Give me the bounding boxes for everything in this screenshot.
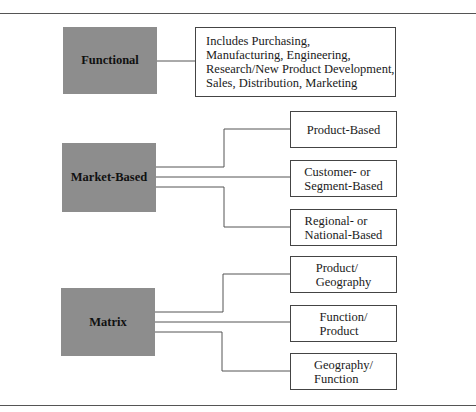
- category-label: Matrix: [89, 315, 126, 330]
- box-label: Regional- or National-Based: [305, 214, 383, 242]
- box-label: Customer- or Segment-Based: [304, 165, 382, 193]
- customer-segment-based-box: Customer- or Segment-Based: [290, 160, 397, 197]
- box-label: Product-Based: [307, 123, 381, 137]
- product-geography-box: Product/ Geography: [290, 256, 397, 293]
- functional-description: Includes Purchasing, Manufacturing, Engi…: [206, 34, 394, 90]
- connector-product-based: [156, 129, 290, 167]
- connector-regional-based: [156, 187, 290, 227]
- category-matrix: Matrix: [61, 288, 155, 356]
- regional-national-based-box: Regional- or National-Based: [290, 209, 397, 246]
- box-label: Product/ Geography: [316, 261, 372, 289]
- category-functional: Functional: [63, 27, 157, 94]
- connector-product-geography: [155, 274, 290, 312]
- category-market-based: Market-Based: [62, 143, 156, 212]
- function-product-box: Function/ Product: [290, 305, 397, 342]
- box-label: Function/ Product: [320, 310, 368, 338]
- product-based-box: Product-Based: [290, 111, 397, 148]
- box-label: Geography/ Function: [314, 358, 373, 386]
- geography-function-box: Geography/ Function: [290, 353, 397, 390]
- category-label: Market-Based: [71, 170, 147, 185]
- category-label: Functional: [81, 53, 139, 68]
- connector-geography-function: [155, 332, 290, 371]
- functional-description-box: Includes Purchasing, Manufacturing, Engi…: [195, 27, 396, 97]
